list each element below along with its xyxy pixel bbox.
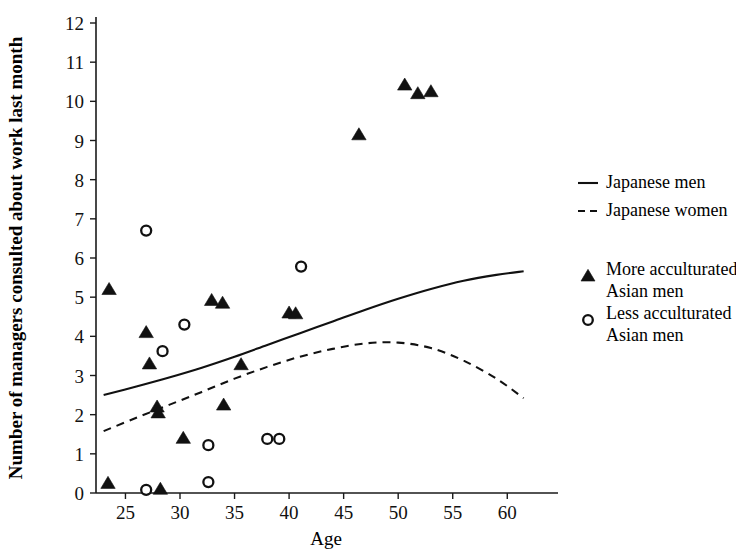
marker-more-acculturated (215, 296, 229, 308)
x-tick-label: 55 (443, 502, 462, 523)
legend-label-line2: Asian men (606, 281, 683, 301)
y-tick-label: 3 (75, 366, 85, 387)
data-markers (101, 78, 438, 495)
legend-swatch-open-circle (583, 315, 593, 325)
x-tick-label: 25 (116, 502, 135, 523)
y-axis-title: Number of managers consulted about work … (5, 36, 26, 479)
x-axis-title: Age (310, 528, 342, 549)
marker-more-acculturated (204, 293, 218, 305)
x-tick-label: 30 (171, 502, 190, 523)
x-tick-label: 40 (280, 502, 299, 523)
marker-less-acculturated (296, 262, 306, 272)
marker-less-acculturated (274, 434, 284, 444)
axis-tick-labels: 01234567891011122530354045505560 (65, 13, 517, 523)
legend-label: Japanese women (606, 200, 727, 220)
scatter-plot: 01234567891011122530354045505560 AgeNumb… (0, 0, 736, 549)
marker-less-acculturated (262, 434, 272, 444)
marker-less-acculturated (203, 477, 213, 487)
legend: Japanese menJapanese womenMore accultura… (578, 172, 736, 345)
y-tick-label: 12 (65, 13, 84, 34)
marker-more-acculturated (139, 326, 153, 338)
marker-less-acculturated (158, 346, 168, 356)
marker-more-acculturated (424, 85, 438, 97)
y-tick-label: 0 (75, 483, 85, 504)
y-tick-label: 1 (75, 444, 85, 465)
marker-more-acculturated (153, 482, 167, 494)
marker-more-acculturated (176, 431, 190, 443)
x-tick-label: 50 (389, 502, 408, 523)
y-tick-label: 6 (75, 248, 85, 269)
legend-label-line1: Less acculturated (606, 303, 731, 323)
fit-line-japanese-men (104, 271, 524, 395)
marker-more-acculturated (398, 78, 412, 90)
legend-label: Japanese men (606, 172, 705, 192)
marker-less-acculturated (203, 440, 213, 450)
y-tick-label: 7 (75, 209, 85, 230)
x-tick-label: 60 (498, 502, 517, 523)
y-tick-label: 4 (75, 326, 85, 347)
marker-less-acculturated (179, 320, 189, 330)
marker-more-acculturated (234, 358, 248, 370)
y-tick-label: 9 (75, 131, 85, 152)
y-tick-label: 2 (75, 405, 85, 426)
y-tick-label: 8 (75, 170, 85, 191)
y-tick-label: 10 (65, 91, 84, 112)
legend-label-line1: More acculturated (606, 259, 736, 279)
x-tick-label: 45 (334, 502, 353, 523)
legend-label-line2: Asian men (606, 325, 683, 345)
legend-swatch-filled-triangle (581, 269, 595, 281)
marker-more-acculturated (216, 398, 230, 410)
axes (96, 17, 558, 493)
marker-less-acculturated (141, 485, 151, 495)
marker-less-acculturated (141, 226, 151, 236)
axis-titles: AgeNumber of managers consulted about wo… (5, 36, 342, 549)
marker-more-acculturated (101, 476, 115, 488)
y-tick-label: 11 (66, 52, 84, 73)
x-tick-label: 35 (225, 502, 244, 523)
marker-more-acculturated (411, 87, 425, 99)
marker-more-acculturated (352, 128, 366, 140)
marker-more-acculturated (102, 282, 116, 294)
chart-page: 01234567891011122530354045505560 AgeNumb… (0, 0, 736, 549)
y-tick-label: 5 (75, 287, 85, 308)
marker-more-acculturated (142, 357, 156, 369)
